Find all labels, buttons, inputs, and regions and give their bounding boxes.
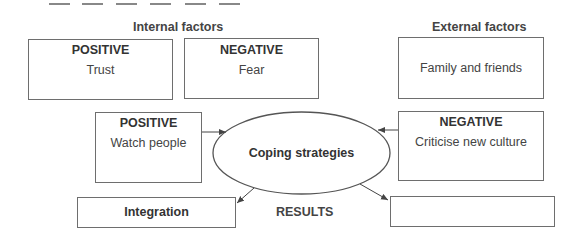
box-header: POSITIVE <box>96 116 201 130</box>
internal-negative-box: NEGATIVE Fear <box>184 38 319 99</box>
box-text: Watch people <box>96 136 201 150</box>
box-header: NEGATIVE <box>185 43 318 57</box>
external-factors-title: External factors <box>432 20 526 34</box>
box-text: Integration <box>78 205 235 219</box>
internal-factors-title: Internal factors <box>133 20 223 34</box>
external-factors-box: Family and friends <box>398 37 544 99</box>
results-label: RESULTS <box>276 205 333 219</box>
result-integration-box: Integration <box>77 197 236 228</box>
box-text: Criticise new culture <box>399 135 543 149</box>
result-empty-box[interactable] <box>390 196 555 227</box>
box-text: Trust <box>29 63 172 77</box>
box-header: NEGATIVE <box>399 115 543 129</box>
box-text: Family and friends <box>399 61 543 75</box>
box-text: Fear <box>185 63 318 77</box>
internal-positive-box: POSITIVE Trust <box>28 39 173 100</box>
strategy-positive-box: POSITIVE Watch people <box>95 112 202 183</box>
box-header: POSITIVE <box>29 43 172 57</box>
coping-strategies-label: Coping strategies <box>213 112 390 194</box>
strategy-negative-box: NEGATIVE Criticise new culture <box>398 111 544 181</box>
